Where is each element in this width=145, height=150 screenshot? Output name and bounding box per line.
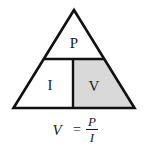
section-v-fill [73, 59, 135, 108]
label-v: V [89, 78, 100, 94]
formula-lhs: V [52, 122, 63, 138]
formula-equals: = [73, 122, 81, 137]
label-i: I [48, 77, 53, 93]
label-p: P [70, 35, 78, 51]
formula-numerator: P [87, 114, 96, 129]
formula-denominator: I [89, 130, 95, 145]
power-triangle-diagram: P I V V = P I [0, 0, 145, 150]
formula: V = P I [52, 114, 98, 145]
